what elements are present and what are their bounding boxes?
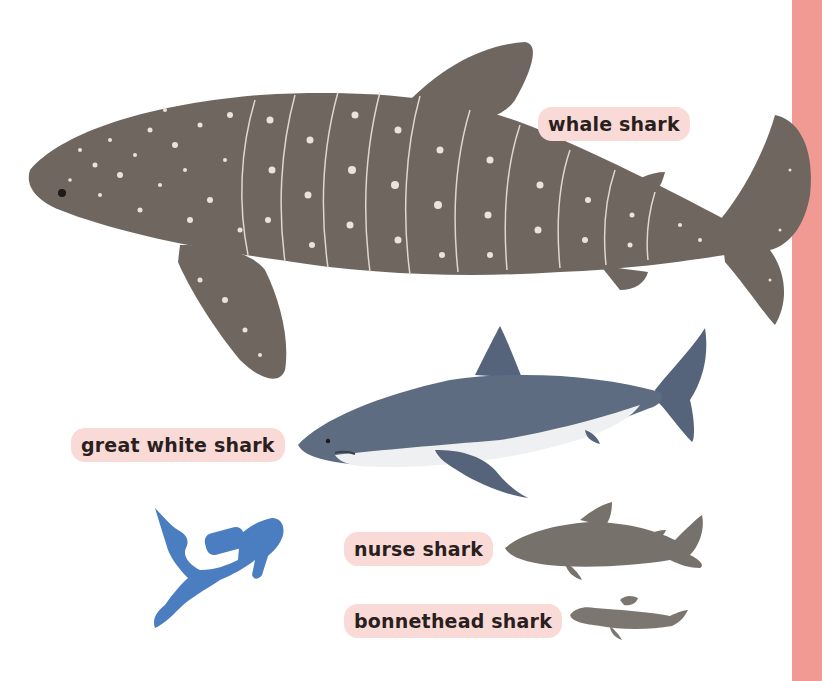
nurse-shark-illustration: [505, 502, 703, 580]
label-nurse-shark: nurse shark: [344, 532, 493, 566]
shark-size-illustration: [0, 0, 822, 681]
label-great-white-shark: great white shark: [71, 428, 285, 462]
whale-shark-illustration: [29, 42, 811, 379]
label-bonnethead-shark: bonnethead shark: [344, 604, 562, 638]
bonnethead-shark-illustration: [570, 596, 688, 640]
label-whale-shark: whale shark: [538, 107, 690, 141]
great-white-shark-illustration: [298, 326, 706, 498]
scuba-diver-silhouette: [154, 508, 284, 628]
